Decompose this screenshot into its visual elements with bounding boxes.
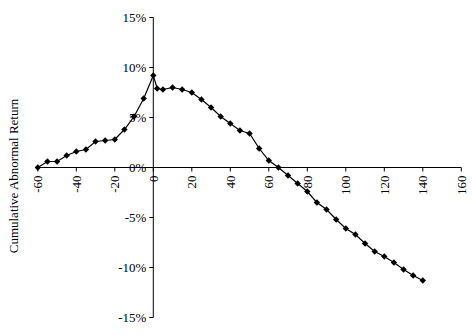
data-point-marker (44, 158, 50, 164)
data-point-marker (410, 272, 416, 278)
x-tick-label: 40 (223, 176, 238, 189)
y-axis-label: Cumulative Abnormal Return (6, 99, 22, 254)
x-tick-label: 60 (261, 176, 276, 189)
data-point-marker (160, 86, 166, 92)
data-point-marker (54, 158, 60, 164)
data-point-marker (179, 86, 185, 92)
x-tick-label: 160 (454, 176, 469, 196)
data-point-marker (73, 148, 79, 154)
data-point-marker (150, 72, 156, 78)
data-point-marker (169, 84, 175, 90)
y-tick-label: -10% (118, 260, 146, 275)
data-point-marker (154, 85, 160, 91)
x-tick-label: 140 (415, 176, 430, 196)
y-tick-label: -5% (125, 210, 147, 225)
cumulative-abnormal-return-chart: 15%10%5%0%-5%-10%-15% -60-40-20020406080… (0, 0, 472, 335)
x-tick-label: -60 (30, 176, 45, 193)
data-point-marker (102, 137, 108, 143)
data-point-marker (140, 95, 146, 101)
data-point-marker (63, 152, 69, 158)
y-tick-label: 5% (129, 110, 147, 125)
data-point-marker (246, 130, 252, 136)
x-tick-label: -40 (69, 176, 84, 193)
y-tick-label: -15% (118, 310, 146, 325)
x-tick-label: 0 (146, 176, 161, 183)
y-tick-label: 15% (122, 10, 146, 25)
axes (37, 18, 462, 318)
x-tick-label: 20 (184, 176, 199, 189)
x-tick-label: 100 (338, 176, 353, 196)
y-tick-label: 0% (129, 160, 147, 175)
x-tick-label: 120 (377, 176, 392, 196)
x-tick-label: -20 (107, 176, 122, 193)
x-axis-ticks: -60-40-20020406080100120140160 (30, 168, 469, 196)
data-point-marker (420, 277, 426, 283)
y-tick-label: 10% (122, 60, 146, 75)
data-point-marker (35, 164, 41, 170)
data-point-marker (381, 253, 387, 259)
